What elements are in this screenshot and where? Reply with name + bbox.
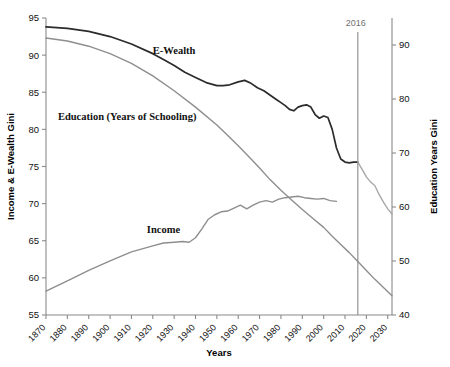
- series-label-e-wealth: E-Wealth: [153, 45, 196, 56]
- y-tick-label-left: 90: [28, 50, 39, 61]
- y-tick-label-right: 60: [399, 201, 410, 212]
- line-chart-canvas: 556065707580859095 405060708090 18701880…: [0, 0, 450, 367]
- y-tick-label-left: 75: [28, 161, 39, 172]
- y-tick-label-right: 80: [399, 93, 410, 104]
- y-tick-label-left: 80: [28, 124, 39, 135]
- y-tick-label-right: 90: [399, 39, 410, 50]
- series-label-education-years-of-schooling: Education (Years of Schooling): [58, 111, 197, 123]
- y-tick-label-left: 65: [28, 235, 39, 246]
- y-axis-title-left: Income & E-Wealth Gini: [5, 113, 16, 220]
- y-tick-label-left: 70: [28, 198, 39, 209]
- y-tick-label-left: 60: [28, 272, 39, 283]
- plot-background: [0, 0, 450, 367]
- y-tick-label-left: 85: [28, 87, 39, 98]
- marker-label-2016: 2016: [346, 18, 366, 28]
- y-tick-label-left: 55: [28, 309, 39, 320]
- chart-figure: 556065707580859095 405060708090 18701880…: [0, 0, 450, 367]
- y-tick-label-right: 40: [399, 309, 410, 320]
- y-tick-label-right: 50: [399, 255, 410, 266]
- x-axis-title: Years: [206, 347, 231, 358]
- series-label-income: Income: [147, 224, 181, 235]
- y-tick-label-right: 70: [399, 147, 410, 158]
- y-axis-title-right: Education Years Gini: [428, 119, 439, 214]
- y-tick-label-left: 95: [28, 12, 39, 23]
